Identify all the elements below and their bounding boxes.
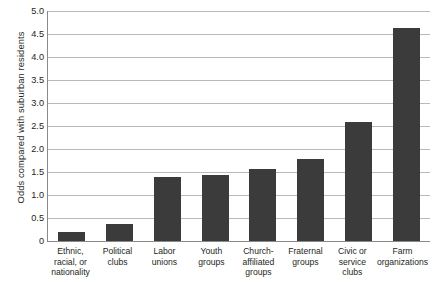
y-axis-tick-label: 3.0 xyxy=(31,98,44,108)
bar-chart: Odds compared with suburban residents 5.… xyxy=(0,0,433,282)
y-axis-tick-label: 0.5 xyxy=(31,213,44,223)
y-axis-tick-label: 1.0 xyxy=(31,190,44,200)
bar-slot xyxy=(144,11,192,241)
y-axis-tick-label: 5.0 xyxy=(31,6,44,16)
x-axis-category-label: Fraternal groups xyxy=(282,246,329,278)
bar xyxy=(154,177,181,241)
y-axis-tick-label: 0 xyxy=(39,236,44,246)
x-axis-category-label: Farm organizations xyxy=(376,246,429,278)
bar-slot xyxy=(239,11,287,241)
x-axis-category-label: Youth groups xyxy=(188,246,235,278)
x-axis-category-label: Civic or service clubs xyxy=(329,246,376,278)
plot-area xyxy=(47,11,430,242)
bar-slot xyxy=(335,11,383,241)
y-axis-tick-label: 4.0 xyxy=(31,52,44,62)
bar xyxy=(297,159,324,241)
bar-slot xyxy=(287,11,335,241)
x-axis-category-labels: Ethnic, racial, or nationalityPolitical … xyxy=(47,246,429,278)
bar-slot xyxy=(48,11,96,241)
bar xyxy=(106,224,133,241)
x-axis-category-label: Ethnic, racial, or nationality xyxy=(47,246,94,278)
bar xyxy=(393,28,420,241)
bar-series xyxy=(48,11,430,241)
bar-slot xyxy=(382,11,430,241)
bar-slot xyxy=(191,11,239,241)
bar xyxy=(202,175,229,241)
x-axis-category-label: Political clubs xyxy=(94,246,141,278)
bar xyxy=(345,122,372,241)
y-axis-tick-label: 4.5 xyxy=(31,29,44,39)
bar xyxy=(58,232,85,241)
bar xyxy=(249,169,276,241)
x-axis-category-label: Church- affiliated groups xyxy=(235,246,282,278)
y-axis-tick-label: 2.5 xyxy=(31,121,44,131)
y-axis-tick-labels: 5.04.54.03.53.02.52.01.51.00.50 xyxy=(16,0,44,282)
x-axis-category-label: Labor unions xyxy=(141,246,188,278)
y-axis-tick-label: 2.0 xyxy=(31,144,44,154)
y-axis-tick-label: 3.5 xyxy=(31,75,44,85)
y-axis-tick-label: 1.5 xyxy=(31,167,44,177)
bar-slot xyxy=(96,11,144,241)
